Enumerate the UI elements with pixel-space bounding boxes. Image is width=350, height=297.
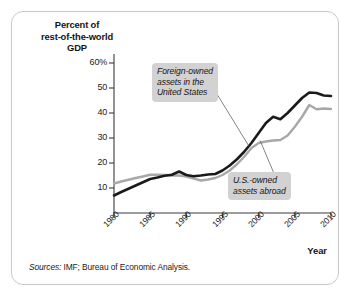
annotation-foreign-line-1: Foreign-owned: [157, 66, 213, 77]
source-text: IMF; Bureau of Economic Analysis.: [64, 262, 191, 272]
annotation-foreign-line-2: assets in the: [157, 77, 213, 88]
x-axis-label: Year: [307, 245, 327, 256]
y-tick-label: 20: [73, 157, 107, 167]
plot-area: [12, 12, 340, 286]
y-tick-label: 10: [73, 182, 107, 192]
annotation-usowned-line-1: U.S.-owned: [233, 175, 286, 186]
annotation-foreign-owned: Foreign-owned assets in the United State…: [152, 63, 218, 102]
annotation-foreign-line-3: United States: [157, 87, 213, 98]
source-note: Sources: IMF; Bureau of Economic Analysi…: [29, 262, 190, 272]
annotation-usowned-line-2: assets abroad: [233, 186, 286, 197]
y-tick-label: 50: [73, 82, 107, 92]
series-line: [114, 93, 331, 196]
axes: [114, 54, 331, 213]
data-series: [114, 93, 331, 196]
source-label: Sources:: [29, 262, 61, 272]
y-tick-label: 60%: [73, 57, 107, 67]
figure-frame: Percent of rest-of-the-world GDP 1020304…: [11, 11, 339, 285]
chart-svg: [12, 12, 340, 286]
y-tick-label: 40: [73, 107, 107, 117]
y-axis-ticks: [109, 63, 114, 188]
annotation-leader-lines: [209, 82, 277, 182]
y-tick-label: 30: [73, 132, 107, 142]
annotation-us-owned: U.S.-owned assets abroad: [228, 172, 291, 200]
